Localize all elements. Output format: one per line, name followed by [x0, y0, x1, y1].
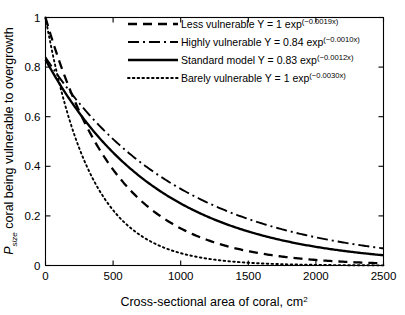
legend-label: Standard model Y = 0.83 exp(−0.0012x)	[181, 53, 354, 66]
y-axis-title: Psize coral being vulnerable to overgrow…	[2, 27, 19, 255]
y-axis-tick-labels: 00.20.40.60.81	[25, 12, 42, 272]
x-tick-label: 500	[104, 270, 123, 282]
y-tick-label: 0.4	[25, 160, 42, 172]
y-tick-label: 0	[34, 260, 40, 272]
x-tick-label: 2500	[371, 270, 397, 282]
x-tick-label: 1500	[236, 270, 262, 282]
x-axis-title: Cross-sectional area of coral, cm2	[120, 295, 308, 310]
curve-standard-model	[46, 60, 384, 256]
chart-figure: 05001000150020002500 00.20.40.60.81 Less…	[0, 0, 405, 315]
y-tick-label: 0.8	[25, 61, 41, 73]
exponential-decay-line-chart: 05001000150020002500 00.20.40.60.81 Less…	[0, 0, 405, 315]
y-tick-label: 1	[34, 12, 40, 24]
y-tick-label: 0.6	[25, 111, 41, 123]
legend-label: Highly vulnerable Y = 0.84 exp(−0.0010x)	[181, 35, 360, 48]
y-tick-label: 0.2	[25, 210, 41, 222]
chart-legend: Less vulnerable Y = 1 exp(−0.0019x)Highl…	[128, 17, 360, 84]
x-tick-label: 0	[42, 270, 48, 282]
legend-label: Less vulnerable Y = 1 exp(−0.0019x)	[181, 17, 339, 30]
x-tick-label: 2000	[303, 270, 329, 282]
x-tick-label: 1000	[168, 270, 194, 282]
legend-label: Barely vulnerable Y = 1 exp(−0.0030x)	[181, 71, 346, 84]
x-axis-tick-labels: 05001000150020002500	[42, 270, 396, 282]
